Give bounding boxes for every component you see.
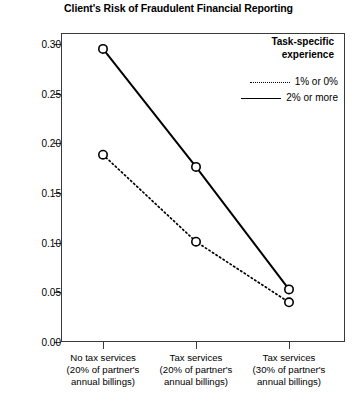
series-line-dotted [103,155,289,303]
data-point-marker [99,45,107,53]
chart-legend: Task-specific experience 1% or 0% 2% or … [228,36,340,104]
legend-label: 2% or more [286,92,338,103]
legend-swatch-dotted-line [250,77,290,87]
series-1pct-or-0pct [99,151,293,307]
legend-swatch-solid-line [241,93,281,103]
data-point-marker [99,151,107,159]
legend-label: 1% or 0% [295,76,338,87]
legend-item-2pct-or-more: 2% or more [228,91,338,104]
data-point-marker [285,298,293,306]
legend-title-line-2: experience [228,49,334,62]
data-point-marker [192,238,200,246]
data-point-marker [192,163,200,171]
legend-item-1pct-or-0pct: 1% or 0% [228,75,338,88]
legend-title-line-1: Task-specific [228,36,334,49]
legend-title: Task-specific experience [228,36,334,61]
chart-figure: Client's Risk of Fraudulent Financial Re… [0,0,357,405]
data-point-marker [285,285,293,293]
